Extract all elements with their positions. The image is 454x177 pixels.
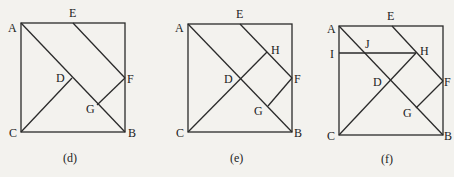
label-g: G: [86, 102, 95, 116]
label-d: D: [224, 72, 233, 86]
label-f: F: [127, 72, 134, 86]
label-f: F: [444, 75, 451, 89]
label-g: G: [403, 106, 412, 120]
label-f: F: [294, 72, 301, 86]
segment-fg: [416, 81, 443, 108]
segment-fg: [268, 78, 292, 106]
label-d: D: [373, 75, 382, 89]
caption-f: (f): [381, 152, 393, 166]
label-j: J: [365, 37, 370, 51]
label-e: E: [387, 9, 394, 23]
label-c: C: [176, 126, 184, 140]
tangram-diagrams: A E F D G C B (d) A E H F D G C B (e) A …: [0, 0, 454, 177]
label-e: E: [69, 6, 76, 20]
caption-d: (d): [63, 151, 77, 165]
segment-ch: [188, 52, 267, 132]
label-i: I: [330, 47, 334, 61]
label-g: G: [254, 104, 263, 118]
label-a: A: [327, 22, 336, 36]
label-h: H: [271, 43, 280, 57]
figure-d: A E F D G C B (d): [8, 6, 136, 165]
label-a: A: [175, 21, 184, 35]
label-a: A: [8, 21, 17, 35]
label-d: D: [56, 71, 65, 85]
label-b: B: [444, 129, 452, 143]
segment-fg: [97, 78, 125, 105]
segment-ef: [73, 23, 125, 78]
label-c: C: [9, 126, 17, 140]
label-c: C: [327, 129, 335, 143]
label-b: B: [128, 126, 136, 140]
segment-ef: [240, 24, 292, 78]
label-e: E: [236, 7, 243, 21]
label-b: B: [294, 126, 302, 140]
caption-e: (e): [230, 151, 243, 165]
figure-f: A E I J H F D G C B (f): [327, 9, 452, 166]
segment-cd: [21, 78, 72, 132]
label-h: H: [420, 44, 429, 58]
figure-e: A E H F D G C B (e): [175, 7, 302, 165]
